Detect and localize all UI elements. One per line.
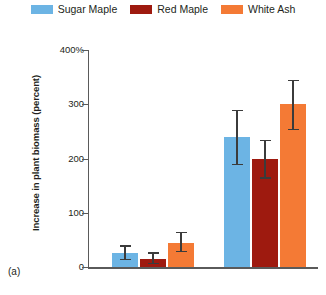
- error-cap-group-2-series-0-lower: [232, 164, 243, 165]
- y-axis-tick-mark-100: [82, 213, 88, 214]
- y-axis-tick-mark-200: [82, 159, 88, 160]
- error-cap-group-1-series-2-upper: [176, 232, 187, 233]
- error-cap-group-1-series-1-lower: [148, 263, 159, 264]
- error-cap-group-2-series-2-lower: [288, 129, 299, 130]
- bar-chart: Increase in plant biomass (percent) 0100…: [0, 0, 326, 295]
- y-axis-tick-200: 200: [40, 154, 84, 164]
- error-cap-group-1-series-2-lower: [176, 251, 187, 252]
- error-cap-group-2-series-0-upper: [232, 110, 243, 111]
- error-cap-group-2-series-1-lower: [260, 177, 271, 178]
- y-axis-line: [88, 50, 89, 268]
- error-bar-group-1-series-1: [152, 252, 153, 263]
- y-axis-tick-0: 0: [40, 262, 84, 272]
- y-axis-tick-mark-400: [82, 50, 88, 51]
- error-cap-group-2-series-1-upper: [260, 140, 271, 141]
- y-axis-tick-mark-0: [82, 267, 88, 268]
- error-bar-group-2-series-2: [292, 80, 293, 129]
- x-axis-line: [88, 267, 318, 269]
- y-axis-tick-mark-300: [82, 104, 88, 105]
- y-axis-tick-300: 300: [40, 99, 84, 109]
- error-cap-group-2-series-2-upper: [288, 80, 299, 81]
- error-bar-group-1-series-0: [124, 245, 125, 259]
- y-axis-tick-400: 400%: [40, 45, 84, 55]
- error-cap-group-1-series-0-lower: [120, 259, 131, 260]
- y-axis-tick-100: 100: [40, 208, 84, 218]
- y-axis-tick-labels: 0100200300400%: [40, 0, 84, 295]
- error-cap-group-1-series-1-upper: [148, 252, 159, 253]
- error-bar-group-1-series-2: [180, 232, 181, 251]
- error-bar-group-2-series-0: [236, 110, 237, 164]
- panel-label: (a): [8, 266, 20, 277]
- error-bar-group-2-series-1: [264, 140, 265, 178]
- error-cap-group-1-series-0-upper: [120, 245, 131, 246]
